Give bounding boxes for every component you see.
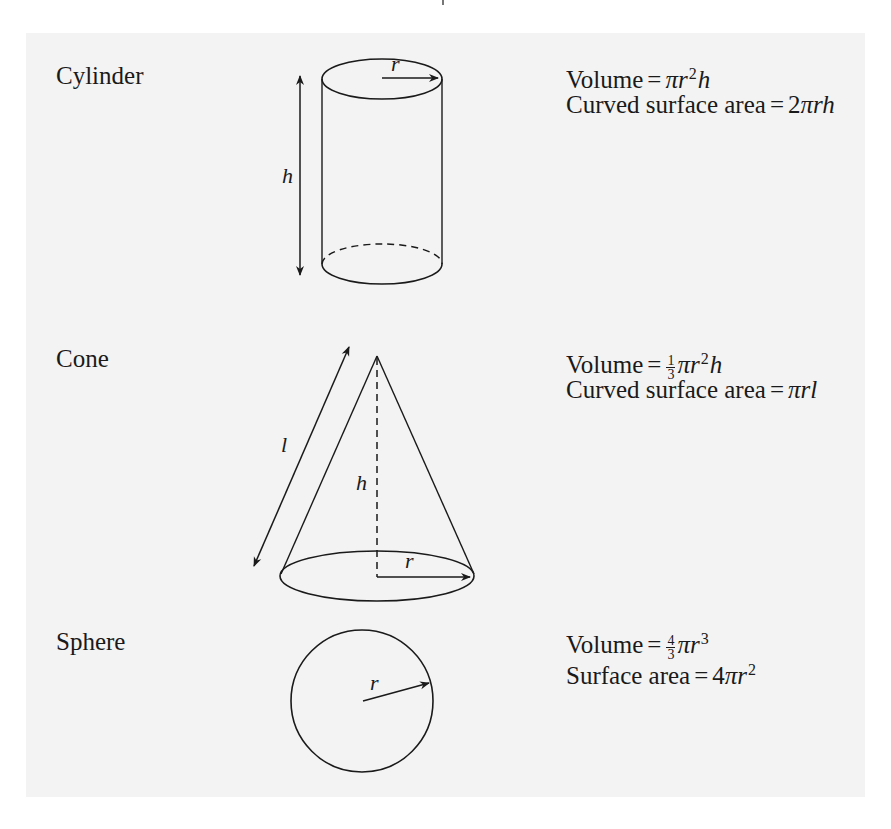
sphere-area-formula: Surface area=4πr2 xyxy=(566,654,757,685)
sphere-diagram: r xyxy=(0,0,891,829)
sphere-area-expr: 4πr2 xyxy=(712,662,757,689)
sphere-volume-formula: Volume=43πr3 xyxy=(566,623,757,654)
sphere-radius-label: r xyxy=(370,670,379,695)
equals-sign: = xyxy=(690,662,712,689)
sphere-formulas: Volume=43πr3 Surface area=4πr2 xyxy=(566,623,757,685)
surface-area-label: Surface area xyxy=(566,662,690,689)
